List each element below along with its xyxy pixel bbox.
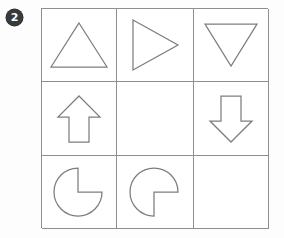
matrix-cell-row1-col2[interactable] <box>117 9 194 82</box>
matrix-cell-row2-col2[interactable] <box>117 82 194 156</box>
matrix-cell-row2-col3[interactable] <box>194 82 269 156</box>
pie-notch-lower-right-icon <box>128 165 182 219</box>
pie-notch-upper-right-icon <box>52 165 106 219</box>
matrix-cell-row3-col2[interactable] <box>117 156 194 229</box>
empty-answer-cell-placeholder <box>231 192 232 193</box>
matrix-grid <box>41 8 268 228</box>
matrix-cell-row3-col3[interactable] <box>194 156 269 229</box>
item-number-badge: 2 <box>6 9 23 26</box>
matrix-cell-row2-col1[interactable] <box>42 82 117 156</box>
matrix-cell-row3-col1[interactable] <box>42 156 117 229</box>
arrow-down-icon <box>208 94 254 144</box>
arrow-up-icon <box>56 94 102 144</box>
triangle-down-icon <box>202 21 260 69</box>
empty-cell-placeholder <box>155 118 156 119</box>
triangle-up-icon <box>48 20 110 70</box>
triangle-right-icon <box>129 17 181 73</box>
matrix-cell-row1-col1[interactable] <box>42 9 117 82</box>
matrix-cell-row1-col3[interactable] <box>194 9 269 82</box>
